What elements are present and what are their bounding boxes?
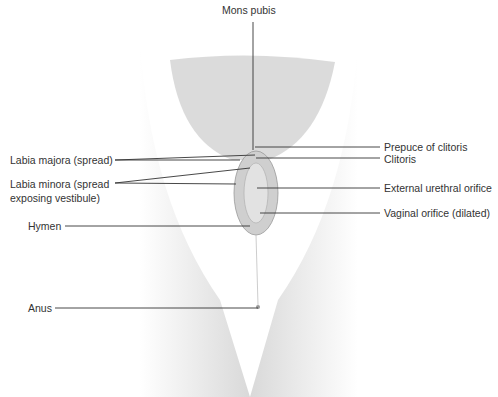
label-labia-minora-2: exposing vestibule) [10, 192, 100, 204]
label-clitoris: Clitoris [384, 153, 416, 165]
label-hymen: Hymen [28, 220, 61, 232]
label-vaginal-orifice: Vaginal orifice (dilated) [384, 207, 490, 219]
mons-region-shape [170, 55, 335, 160]
anatomy-figure: Mons pubis Labia majora (spread) Labia m… [0, 0, 498, 397]
label-urethral-orifice: External urethral orifice [384, 182, 492, 194]
label-labia-majora: Labia majora (spread) [10, 154, 113, 166]
inner-region-shape [244, 163, 268, 223]
perineum-line [256, 235, 258, 305]
label-labia-minora-1: Labia minora (spread [10, 178, 109, 190]
label-prepuce: Prepuce of clitoris [384, 141, 467, 153]
label-mons-pubis: Mons pubis [222, 4, 276, 16]
label-anus: Anus [28, 302, 52, 314]
